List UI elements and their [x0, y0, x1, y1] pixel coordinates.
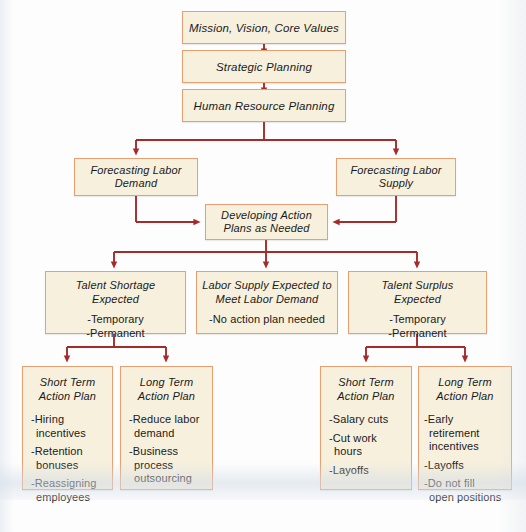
node-title: Labor Supply Expected to Meet Labor Dema… [202, 279, 332, 306]
list-item: -Reassigning employees [31, 477, 112, 504]
list-item: -No action plan needed [209, 313, 325, 327]
list-item: -Reduce labor demand [129, 413, 212, 440]
node-developing-action-plans[interactable]: Developing Action Plans as Needed [205, 204, 328, 240]
node-bullet-list: -Early retirement incentives -Layoffs -D… [419, 413, 511, 509]
node-title: Talent Surplus Expected [381, 279, 453, 306]
node-bullet-list: -Reduce labor demand -Business process o… [121, 413, 212, 491]
node-forecasting-labor-supply[interactable]: Forecasting Labor Supply [336, 158, 456, 196]
list-item: -Temporary [388, 313, 446, 327]
node-shortage-short-term-action-plan[interactable]: Short Term Action Plan -Hiring incentive… [22, 366, 113, 490]
node-title: Long Term Action Plan [436, 376, 493, 403]
node-bullet-list: -Hiring incentives -Retention bonuses -R… [23, 413, 112, 509]
list-item: -Temporary [86, 313, 144, 327]
node-bullet-list: -No action plan needed [209, 313, 325, 327]
list-item: -Layoffs [329, 464, 411, 478]
node-talent-surplus-expected[interactable]: Talent Surplus Expected -Temporary -Perm… [348, 271, 487, 334]
node-title: Short Term Action Plan [337, 376, 394, 403]
list-item: -Do not fill open positions [424, 477, 511, 504]
node-shortage-long-term-action-plan[interactable]: Long Term Action Plan -Reduce labor dema… [120, 366, 213, 490]
node-labor-supply-meets-demand[interactable]: Labor Supply Expected to Meet Labor Dema… [196, 271, 338, 334]
list-item: -Hiring incentives [31, 413, 112, 440]
node-title: Short Term Action Plan [39, 376, 96, 403]
list-item: -Salary cuts [329, 413, 411, 427]
node-title: Developing Action Plans as Needed [221, 209, 312, 236]
node-title: Talent Shortage Expected [76, 279, 156, 306]
node-forecasting-labor-demand[interactable]: Forecasting Labor Demand [74, 158, 198, 196]
list-item: -Permanent [86, 327, 144, 341]
list-item: -Layoffs [424, 459, 511, 473]
node-surplus-long-term-action-plan[interactable]: Long Term Action Plan -Early retirement … [418, 366, 512, 490]
list-item: -Early retirement incentives [424, 413, 511, 454]
node-strategic-planning[interactable]: Strategic Planning [182, 50, 346, 83]
node-mission-vision-core-values[interactable]: Mission, Vision, Core Values [182, 11, 346, 44]
list-item: -Retention bonuses [31, 445, 112, 472]
node-surplus-short-term-action-plan[interactable]: Short Term Action Plan -Salary cuts -Cut… [320, 366, 412, 490]
flowchart-page: Mission, Vision, Core Values Strategic P… [0, 0, 526, 532]
node-bullet-list: -Temporary -Permanent [86, 313, 144, 340]
node-title: Forecasting Labor Demand [90, 164, 181, 191]
node-title: Strategic Planning [216, 60, 312, 74]
node-bullet-list: -Salary cuts -Cut work hours -Layoffs [321, 413, 411, 482]
node-human-resource-planning[interactable]: Human Resource Planning [182, 89, 346, 122]
node-title: Human Resource Planning [194, 99, 335, 113]
list-item: -Business process outsourcing [129, 445, 212, 486]
node-bullet-list: -Temporary -Permanent [388, 313, 446, 340]
node-title: Long Term Action Plan [138, 376, 195, 403]
node-talent-shortage-expected[interactable]: Talent Shortage Expected -Temporary -Per… [45, 271, 186, 334]
node-title: Mission, Vision, Core Values [189, 21, 339, 35]
list-item: -Permanent [388, 327, 446, 341]
list-item: -Cut work hours [329, 432, 411, 459]
node-title: Forecasting Labor Supply [350, 164, 441, 191]
